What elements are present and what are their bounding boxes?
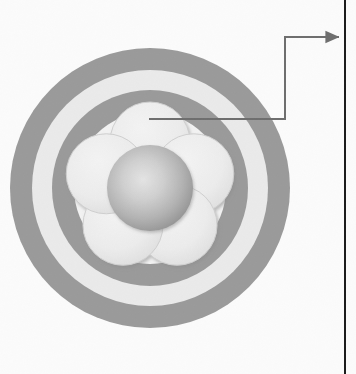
flower-core-sphere xyxy=(107,145,193,231)
figure-page xyxy=(0,0,356,374)
flower-cross-section-diagram xyxy=(0,0,356,374)
